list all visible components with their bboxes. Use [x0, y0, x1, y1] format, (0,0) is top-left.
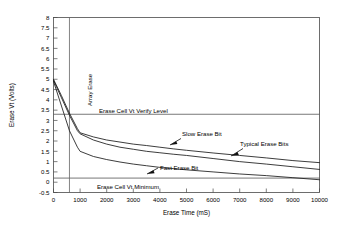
y-axis-title: Erase Vt (Volts)	[8, 83, 16, 127]
x-tick-label: 4000	[153, 196, 167, 203]
y-tick-label: 1.5	[41, 148, 50, 155]
annotation-fast-erase-bit: Fast Erase Bit	[160, 164, 199, 171]
x-tick-label: 5000	[180, 196, 194, 203]
y-tick-label: 6.5	[41, 45, 50, 52]
y-tick-label: 4.5	[41, 86, 50, 93]
y-tick-label: -0.5	[39, 189, 50, 196]
annotation-erase-cell-vt-minimum: Erase Cell Vt Minimum	[97, 183, 159, 190]
y-tick-label: 0.5	[41, 168, 50, 175]
x-axis-title: Erase Time (mS)	[163, 209, 210, 217]
y-tick-label: 3.5	[41, 106, 50, 113]
x-tick-label: 6000	[206, 196, 220, 203]
y-tick-label: 5.5	[41, 65, 50, 72]
erase-vt-vs-erase-time-chart: -0.500.511.522.533.544.555.566.577.58 01…	[0, 0, 340, 233]
x-tick-label: 1000	[73, 196, 87, 203]
y-tick-label: 7.5	[41, 24, 50, 31]
annotation-array-erase: Array Erase	[86, 73, 93, 106]
x-tick-label: 7000	[233, 196, 247, 203]
x-tick-label: 2000	[100, 196, 114, 203]
x-tick-label: 8000	[260, 196, 274, 203]
annotation-typical-erase-bits: Typical Erase Bits	[240, 140, 288, 147]
x-tick-label: 3000	[127, 196, 141, 203]
x-tick-label: 9000	[286, 196, 300, 203]
annotation-erase-cell-vt-verify-level: Erase Cell Vt Verify Level	[99, 107, 168, 114]
y-tick-label: 2.5	[41, 127, 50, 134]
chart-canvas: -0.500.511.522.533.544.555.566.577.58 01…	[0, 0, 340, 233]
annotation-slow-erase-bit: Slow Erase Bit	[182, 130, 222, 137]
x-tick-label: 10000	[311, 196, 329, 203]
